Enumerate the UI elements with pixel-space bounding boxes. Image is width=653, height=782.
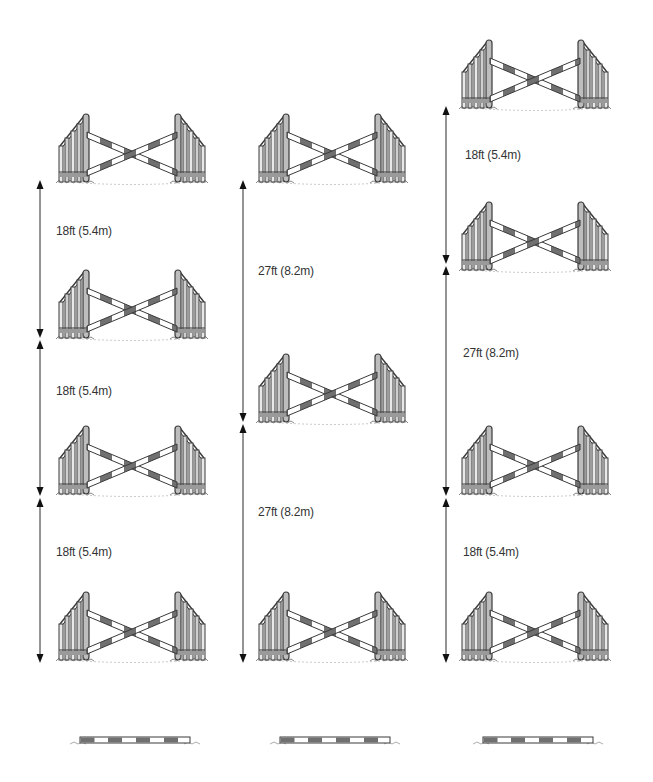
distance-arrow-icon bbox=[34, 498, 46, 663]
cross-poles bbox=[490, 610, 580, 654]
cross-poles bbox=[87, 610, 177, 654]
cross-pole-fence-drawing bbox=[455, 590, 615, 665]
cross-pole-fence-2-3 bbox=[252, 590, 412, 665]
ground-pole-2 bbox=[270, 733, 400, 747]
cross-pole-fence-2-2 bbox=[252, 352, 412, 427]
distance-arrow-icon bbox=[440, 106, 452, 264]
distance-arrow-icon bbox=[440, 266, 452, 496]
distance-label: 27ft (8.2m) bbox=[258, 264, 314, 278]
distance-label: 18ft (5.4m) bbox=[56, 384, 112, 398]
cross-pole-fence-drawing bbox=[455, 38, 615, 113]
cross-poles bbox=[87, 444, 177, 488]
cross-poles bbox=[490, 220, 580, 264]
cross-pole-fence-drawing bbox=[455, 200, 615, 275]
cross-pole-fence-1-3 bbox=[52, 424, 212, 499]
cross-pole-fence-3-3 bbox=[455, 424, 615, 499]
cross-pole-fence-1-1 bbox=[52, 112, 212, 187]
distance-arrow-icon bbox=[34, 340, 46, 496]
cross-pole-fence-drawing bbox=[52, 112, 212, 187]
distance-label: 27ft (8.2m) bbox=[463, 346, 519, 360]
distance-label: 18ft (5.4m) bbox=[56, 224, 112, 238]
cross-pole-fence-3-1 bbox=[455, 38, 615, 113]
cross-poles bbox=[287, 132, 377, 176]
cross-pole-fence-2-1 bbox=[252, 112, 412, 187]
cross-pole-fence-drawing bbox=[252, 590, 412, 665]
cross-poles bbox=[87, 288, 177, 332]
ground-pole-1 bbox=[70, 733, 200, 747]
distance-label: 18ft (5.4m) bbox=[465, 148, 521, 162]
cross-poles bbox=[287, 610, 377, 654]
cross-pole-fence-1-2 bbox=[52, 268, 212, 343]
cross-pole-fence-drawing bbox=[455, 424, 615, 499]
distance-label: 18ft (5.4m) bbox=[463, 545, 519, 559]
cross-pole-fence-drawing bbox=[252, 112, 412, 187]
cross-poles bbox=[490, 444, 580, 488]
cross-pole-fence-drawing bbox=[52, 424, 212, 499]
cross-pole-fence-1-4 bbox=[52, 590, 212, 665]
distance-arrow-icon bbox=[34, 180, 46, 338]
distance-arrow-icon bbox=[440, 498, 452, 663]
cross-poles bbox=[490, 58, 580, 102]
cross-pole-fence-drawing bbox=[252, 352, 412, 427]
cross-poles bbox=[287, 372, 377, 416]
cross-poles bbox=[87, 132, 177, 176]
distance-arrow-icon bbox=[237, 180, 249, 422]
distance-arrow-icon bbox=[237, 424, 249, 663]
cross-pole-fence-3-2 bbox=[455, 200, 615, 275]
cross-pole-fence-drawing bbox=[52, 268, 212, 343]
cross-pole-fence-3-4 bbox=[455, 590, 615, 665]
distance-label: 27ft (8.2m) bbox=[258, 505, 314, 519]
ground-pole-3 bbox=[473, 733, 603, 747]
cross-pole-fence-drawing bbox=[52, 590, 212, 665]
distance-label: 18ft (5.4m) bbox=[56, 545, 112, 559]
